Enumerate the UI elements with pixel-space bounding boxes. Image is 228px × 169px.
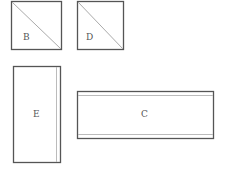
- label-e: E: [33, 110, 40, 119]
- label-b: B: [23, 33, 30, 42]
- pieces-diagram: [0, 0, 228, 169]
- piece-b: [12, 2, 62, 50]
- label-d: D: [86, 33, 93, 42]
- label-c: C: [141, 110, 148, 119]
- piece-d: [78, 2, 124, 50]
